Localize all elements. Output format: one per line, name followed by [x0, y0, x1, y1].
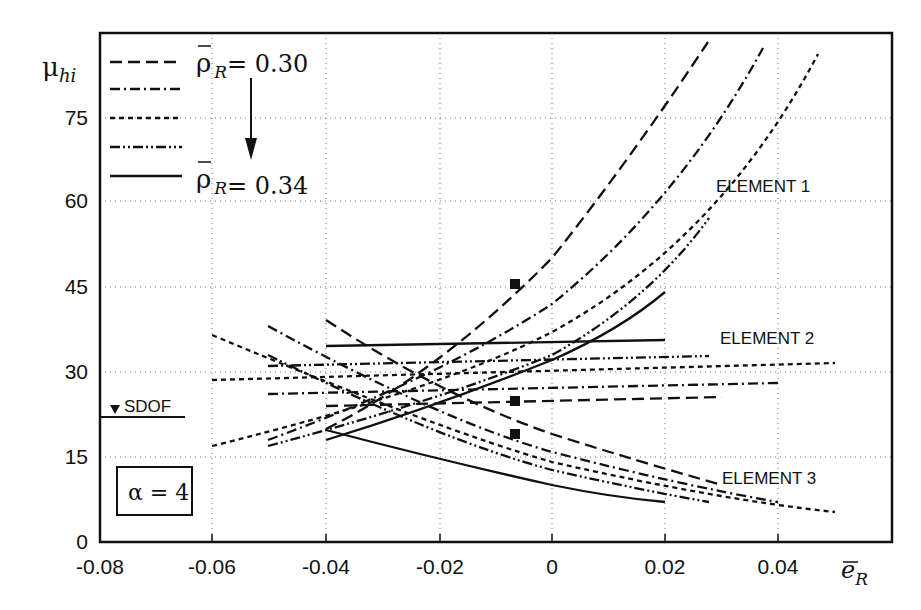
- e3-solid: [326, 430, 665, 502]
- x-axis-label: eR: [841, 556, 868, 589]
- element-1-label: ELEMENT 1: [716, 177, 810, 196]
- e1-dashdotdot: [268, 218, 709, 446]
- chart-canvas: 0 15 30 45 60 75 -0.08 -0.06 -0.04 -0.02…: [0, 0, 921, 610]
- x-axis-ticks: -0.08 -0.06 -0.04 -0.02 0 0.02 0.04: [76, 555, 799, 578]
- data-markers: [510, 279, 520, 439]
- legend-arrow-icon: [245, 78, 257, 160]
- e3-dashdot: [268, 326, 778, 502]
- y-tick-75: 75: [65, 106, 88, 129]
- y-axis-label: μhi: [42, 52, 76, 86]
- marker-square: [510, 279, 520, 289]
- element-2-label: ELEMENT 2: [720, 329, 814, 348]
- e2-dashed: [326, 397, 722, 406]
- svg-text:SDOF: SDOF: [124, 397, 171, 416]
- gridlines: [100, 33, 892, 542]
- svg-text:ρR= 0.30: ρR= 0.30: [196, 48, 308, 82]
- x-tick: -0.06: [188, 555, 236, 578]
- legend-labels: ρR= 0.30 ρR= 0.30= 0.34: [196, 46, 308, 200]
- triangle-down-icon: [110, 405, 120, 414]
- svg-text:ρR= 0.30= 0.34: ρR= 0.30= 0.34: [196, 164, 308, 200]
- marker-square: [510, 396, 520, 406]
- e2-dashdot: [268, 383, 778, 394]
- sdof-indicator: SDOF: [100, 397, 185, 417]
- svg-text:α = 4: α = 4: [128, 480, 189, 505]
- x-tick: 0: [546, 555, 558, 578]
- x-tick: -0.08: [76, 555, 124, 578]
- y-tick-30: 30: [65, 360, 88, 383]
- legend: [110, 62, 182, 176]
- e1-dotted: [212, 54, 818, 446]
- y-tick-45: 45: [65, 275, 88, 298]
- e2-solid: [326, 340, 665, 346]
- e1-dashdot: [268, 48, 763, 440]
- x-tick: -0.04: [302, 555, 350, 578]
- marker-square: [510, 429, 520, 439]
- y-tick-0: 0: [76, 530, 88, 553]
- series-lines: [212, 42, 835, 512]
- x-tick: -0.02: [416, 555, 464, 578]
- e1-dashed: [326, 42, 708, 429]
- e3-dashdotdot: [268, 355, 709, 502]
- y-tick-15: 15: [65, 445, 88, 468]
- y-axis-ticks: 0 15 30 45 60 75: [65, 106, 88, 553]
- y-tick-60: 60: [65, 189, 88, 212]
- svg-text:eR: eR: [841, 556, 868, 589]
- element-3-label: ELEMENT 3: [722, 469, 816, 488]
- x-tick: 0.02: [645, 555, 686, 578]
- x-tick: 0.04: [758, 555, 799, 578]
- alpha-box: α = 4: [117, 467, 192, 515]
